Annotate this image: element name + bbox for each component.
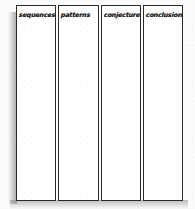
column-body-writing-area[interactable] [102,22,140,200]
page-shadow-bottom [10,200,188,209]
column-header-label: sequences [17,6,56,22]
column-header-label: conclusions [143,6,182,22]
column-body-writing-area[interactable] [17,22,55,200]
organizer-column-conclusions[interactable]: conclusions [143,5,183,201]
organizer-column-patterns[interactable]: patterns [58,5,98,201]
column-body-writing-area[interactable] [144,22,182,200]
four-column-organizer: sequences patterns conjectures conclusio… [16,5,183,201]
worksheet-page: sequences patterns conjectures conclusio… [0,0,195,209]
organizer-column-conjectures[interactable]: conjectures [101,5,141,201]
column-body-writing-area[interactable] [59,22,97,200]
column-header-label: conjectures [101,6,140,22]
column-header-label: patterns [59,6,98,22]
organizer-column-sequences[interactable]: sequences [16,5,56,201]
